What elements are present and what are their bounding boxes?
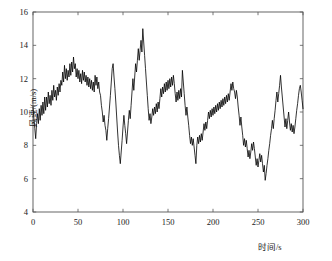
svg-text:12: 12 [20, 74, 29, 84]
x-axis-label: 时间/s [258, 240, 282, 252]
svg-text:8: 8 [24, 140, 28, 150]
svg-text:100: 100 [117, 217, 130, 227]
plot-frame [33, 12, 303, 212]
svg-text:6: 6 [24, 174, 28, 184]
svg-text:150: 150 [162, 217, 175, 227]
svg-text:250: 250 [252, 217, 265, 227]
svg-text:0: 0 [31, 217, 35, 227]
svg-text:50: 50 [74, 217, 83, 227]
svg-text:300: 300 [297, 217, 310, 227]
svg-text:200: 200 [207, 217, 220, 227]
y-axis-label-container: 风速/(m/s) [2, 0, 16, 215]
svg-text:4: 4 [24, 207, 29, 217]
svg-text:10: 10 [20, 107, 29, 117]
svg-text:16: 16 [20, 7, 29, 17]
wind-speed-chart-figure: 05010015020025030046810121416 风速/(m/s) 时… [0, 0, 332, 261]
chart-plot-svg: 05010015020025030046810121416 [0, 0, 332, 261]
svg-text:14: 14 [20, 40, 29, 50]
